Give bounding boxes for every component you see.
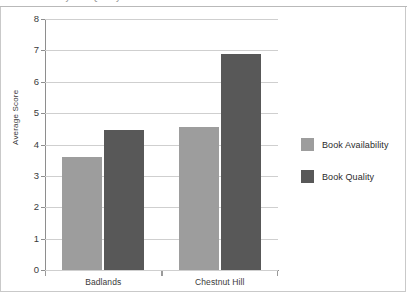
y-gridline bbox=[45, 19, 278, 20]
legend-swatch-icon bbox=[301, 138, 314, 151]
category-label: Badlands bbox=[45, 277, 162, 287]
y-tick-mark bbox=[41, 50, 45, 51]
y-tick-mark bbox=[41, 145, 45, 146]
legend-item[interactable]: Book Availability bbox=[301, 138, 401, 151]
chart-legend: Book AvailabilityBook Quality bbox=[301, 138, 401, 202]
plot-area: 012345678 bbox=[45, 19, 278, 270]
y-tick-label: 2 bbox=[34, 203, 39, 213]
y-gridline bbox=[45, 50, 278, 51]
legend-label: Book Quality bbox=[322, 172, 374, 182]
y-tick-label: 4 bbox=[34, 140, 39, 150]
category-label: Chestnut Hill bbox=[162, 277, 279, 287]
y-tick-mark bbox=[41, 239, 45, 240]
y-tick-label: 0 bbox=[34, 265, 39, 275]
category-axis: BadlandsChestnut Hill bbox=[45, 271, 279, 293]
bar bbox=[179, 127, 219, 270]
chart-frame: Average Score 012345678 BadlandsChestnut… bbox=[0, 7, 406, 292]
y-tick-label: 8 bbox=[34, 14, 39, 24]
bar bbox=[104, 130, 144, 270]
y-axis-label: Average Score bbox=[11, 90, 20, 145]
y-tick-label: 7 bbox=[34, 46, 39, 56]
chart-page: Book Availability and Quality Average Sc… bbox=[0, 0, 407, 293]
cropped-caption-text: Book Availability and Quality bbox=[2, 0, 121, 2]
y-tick-label: 1 bbox=[34, 234, 39, 244]
y-tick-mark bbox=[41, 176, 45, 177]
legend-item[interactable]: Book Quality bbox=[301, 170, 401, 183]
y-tick-mark bbox=[41, 82, 45, 83]
y-tick-mark bbox=[41, 113, 45, 114]
y-tick-label: 3 bbox=[34, 171, 39, 181]
legend-swatch-icon bbox=[301, 170, 314, 183]
category-bracket bbox=[45, 271, 162, 276]
category-group: Chestnut Hill bbox=[162, 271, 279, 293]
legend-label: Book Availability bbox=[322, 140, 389, 150]
y-tick-label: 5 bbox=[34, 108, 39, 118]
y-tick-label: 6 bbox=[34, 77, 39, 87]
category-group: Badlands bbox=[45, 271, 162, 293]
bar bbox=[62, 157, 102, 270]
category-bracket bbox=[162, 271, 279, 276]
y-tick-mark bbox=[41, 207, 45, 208]
bar bbox=[221, 54, 261, 270]
y-tick-mark bbox=[41, 19, 45, 20]
